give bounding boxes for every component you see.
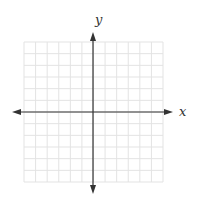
x-axis-left-arrow-icon: [12, 109, 21, 115]
coordinate-plane: y x: [0, 0, 200, 200]
y-axis-label: y: [94, 12, 103, 27]
x-axis-label: x: [179, 104, 187, 119]
y-axis-up-arrow-icon: [90, 32, 96, 41]
y-axis-down-arrow-icon: [90, 185, 96, 194]
y-axis: [90, 32, 96, 194]
x-axis-right-arrow-icon: [164, 109, 173, 115]
